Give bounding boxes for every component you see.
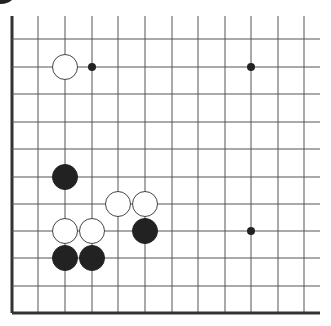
white-stone[interactable] — [53, 55, 78, 80]
star-point-icon — [247, 63, 255, 71]
star-point-icon — [88, 63, 96, 71]
black-stone[interactable] — [80, 246, 105, 271]
go-board[interactable] — [0, 0, 331, 326]
white-stone[interactable] — [53, 219, 78, 244]
white-stone[interactable] — [133, 192, 158, 217]
star-point-icon — [247, 227, 255, 235]
white-stone[interactable] — [106, 192, 131, 217]
stones-layer[interactable] — [53, 55, 158, 271]
black-stone[interactable] — [133, 219, 158, 244]
black-stone[interactable] — [53, 165, 78, 190]
black-stone[interactable] — [53, 246, 78, 271]
white-stone[interactable] — [80, 219, 105, 244]
